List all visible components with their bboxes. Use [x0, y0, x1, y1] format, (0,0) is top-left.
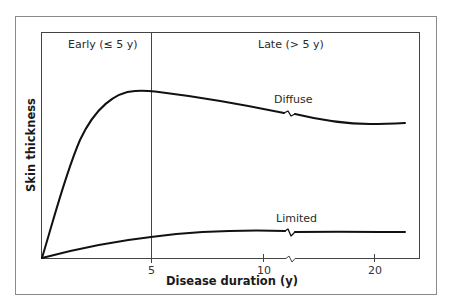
- outer-frame: [16, 17, 437, 295]
- series-diffuse: [42, 91, 405, 258]
- chart-figure: Early (≤ 5 y) Late (> 5 y) Diffuse Limit…: [0, 0, 455, 307]
- y-axis-title: Skin thickness: [24, 98, 38, 192]
- x-axis-title: Disease duration (y): [166, 274, 298, 288]
- series-limited: [42, 229, 405, 258]
- x-axis: [41, 256, 420, 262]
- x-tick-label-5: 5: [148, 264, 155, 277]
- x-tick-label-20: 20: [368, 264, 382, 277]
- region-label-late: Late (> 5 y): [258, 38, 324, 51]
- region-label-early: Early (≤ 5 y): [68, 38, 138, 51]
- series-label-diffuse: Diffuse: [274, 93, 313, 106]
- series-label-limited: Limited: [276, 212, 317, 225]
